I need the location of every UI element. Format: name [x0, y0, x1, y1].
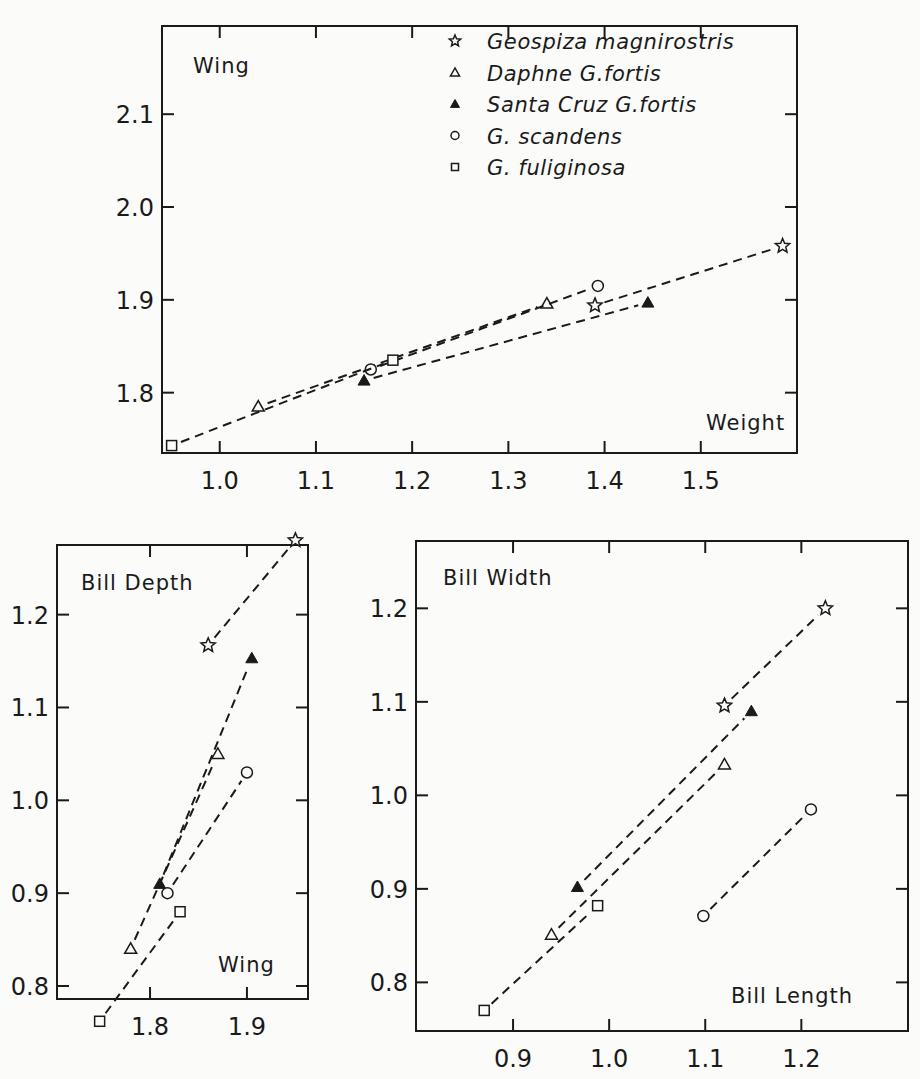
plot-bill-depth-vs-wing: 1.81.90.80.91.01.11.2 Bill Depth Wing	[11, 533, 308, 1041]
open-circle-marker-icon	[451, 132, 459, 140]
series-triangle-open	[252, 298, 553, 412]
series-circle-open	[365, 280, 603, 375]
legend-label: Daphne G.fortis	[487, 62, 661, 86]
x-tick-label: 1.3	[489, 467, 527, 495]
y-tick-label: 1.2	[370, 595, 408, 623]
series-triangle-filled	[571, 705, 757, 891]
series-star	[717, 601, 832, 712]
x-axis-label: Wing	[218, 953, 275, 977]
trend-line	[732, 615, 818, 698]
legend-item: Geospiza magnirostris	[449, 30, 734, 54]
legend: Geospiza magnirostrisDaphne G.fortisSant…	[449, 30, 734, 180]
trend-line	[181, 364, 384, 442]
filled-triangle-marker-icon	[571, 881, 583, 892]
y-axis-label: Wing	[193, 54, 250, 78]
y-tick-label: 2.0	[116, 194, 154, 222]
series-square-open	[95, 907, 185, 1027]
open-circle-marker-icon	[241, 767, 252, 778]
trend-line	[173, 781, 241, 885]
series-triangle-open	[125, 748, 224, 953]
figure-canvas: 1.01.11.21.31.41.51.81.92.02.1 Wing Weig…	[0, 0, 920, 1079]
star-marker-icon	[818, 601, 832, 615]
x-axis-label: Bill Length	[731, 984, 853, 1008]
x-tick-label: 1.5	[682, 467, 720, 495]
x-axis-label: Weight	[706, 411, 785, 435]
series-square-open	[167, 355, 398, 450]
x-tick-label: 1.9	[228, 1013, 266, 1041]
open-square-marker-icon	[95, 1016, 105, 1026]
y-tick-label: 1.0	[11, 787, 49, 815]
series-circle-open	[162, 767, 252, 899]
legend-label: G. scandens	[487, 125, 622, 149]
legend-label: Santa Cruz G.fortis	[487, 93, 697, 117]
x-tick-label: 1.2	[782, 1045, 820, 1073]
star-marker-icon	[717, 698, 731, 712]
filled-triangle-marker-icon	[642, 297, 654, 308]
y-tick-label: 1.1	[11, 694, 49, 722]
legend-item: Daphne G.fortis	[451, 62, 662, 86]
filled-triangle-marker-icon	[154, 878, 166, 889]
star-marker-icon	[588, 298, 602, 312]
open-square-marker-icon	[175, 907, 185, 917]
trend-line	[492, 912, 591, 1003]
x-tick-label: 1.4	[585, 467, 623, 495]
open-triangle-marker-icon	[125, 943, 137, 954]
y-axis-label: Bill Depth	[81, 571, 194, 595]
plot-frame	[416, 541, 908, 1031]
star-marker-icon	[449, 35, 460, 46]
y-tick-label: 2.1	[116, 101, 154, 129]
open-circle-marker-icon	[805, 804, 816, 815]
open-circle-marker-icon	[592, 280, 603, 291]
y-tick-label: 1.0	[370, 782, 408, 810]
star-marker-icon	[201, 638, 215, 652]
open-triangle-marker-icon	[451, 68, 460, 76]
open-triangle-marker-icon	[212, 748, 224, 759]
star-marker-icon	[775, 239, 789, 253]
y-tick-label: 1.1	[370, 689, 408, 717]
trend-line	[604, 249, 773, 302]
x-tick-label: 1.1	[297, 467, 335, 495]
series-square-open	[479, 901, 602, 1016]
series-star	[201, 533, 303, 651]
legend-label: Geospiza magnirostris	[487, 30, 734, 54]
trend-line	[559, 772, 718, 928]
legend-item: G. fuliginosa	[452, 156, 626, 180]
open-triangle-marker-icon	[545, 929, 557, 940]
data-series	[479, 601, 832, 1016]
plot-frame	[162, 26, 797, 453]
trend-line	[164, 668, 249, 875]
legend-item: Santa Cruz G.fortis	[451, 93, 697, 117]
y-axis-label: Bill Width	[443, 566, 553, 590]
trend-line	[380, 289, 588, 366]
filled-triangle-marker-icon	[246, 652, 258, 663]
open-triangle-marker-icon	[718, 758, 730, 769]
series-star	[588, 239, 790, 312]
trend-line	[268, 307, 538, 403]
open-circle-marker-icon	[162, 888, 173, 899]
open-square-marker-icon	[388, 355, 398, 365]
plot-bill-width-vs-bill-length: 0.91.01.11.20.80.91.01.11.2 Bill Width B…	[370, 541, 908, 1073]
legend-label: G. fuliginosa	[487, 156, 626, 180]
trend-line	[374, 305, 639, 378]
trend-line	[710, 816, 803, 909]
trend-line	[584, 718, 744, 880]
filled-triangle-marker-icon	[451, 100, 460, 108]
legend-item: G. scandens	[451, 125, 622, 149]
x-tick-label: 1.1	[686, 1045, 724, 1073]
open-square-marker-icon	[452, 164, 459, 171]
trend-line	[135, 763, 214, 940]
filled-triangle-marker-icon	[745, 705, 757, 716]
y-tick-label: 0.8	[11, 973, 49, 1001]
y-tick-label: 1.8	[116, 380, 154, 408]
open-square-marker-icon	[593, 901, 603, 911]
plot-frame	[57, 545, 308, 999]
x-tick-label: 0.9	[494, 1045, 532, 1073]
open-square-marker-icon	[167, 441, 177, 451]
x-tick-label: 1.2	[393, 467, 431, 495]
y-tick-label: 0.8	[370, 969, 408, 997]
x-tick-label: 1.0	[590, 1045, 628, 1073]
open-square-marker-icon	[479, 1005, 489, 1015]
x-tick-label: 1.0	[201, 467, 239, 495]
plot-wing-vs-weight: 1.01.11.21.31.41.51.81.92.02.1 Wing Weig…	[116, 26, 797, 495]
open-circle-marker-icon	[698, 910, 709, 921]
